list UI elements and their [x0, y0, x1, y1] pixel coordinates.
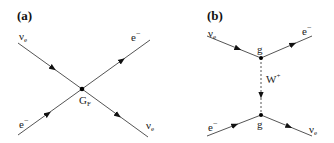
outgoing-neutrino-line — [261, 115, 312, 136]
label-nu-e-out: νe — [309, 123, 317, 137]
label-electron-out: e− — [302, 23, 312, 37]
label-nu-e-out: νe — [146, 119, 154, 133]
outgoing-electron-line — [261, 36, 312, 58]
feynman-diagrams: (a) νe e− e− νe GF (b) νe — [0, 0, 334, 143]
top-vertex-dot — [259, 56, 263, 60]
label-w-boson: W+ — [266, 72, 280, 85]
label-electron-out: e− — [131, 29, 141, 43]
panel-b: (b) νe e− g W+ g e− νe — [207, 8, 317, 137]
vertex-dot — [80, 87, 85, 92]
label-nu-e-in: νe — [208, 27, 216, 41]
label-fermi-coupling: GF — [79, 94, 91, 108]
label-nu-e-in: νe — [19, 30, 27, 44]
incoming-electron-line — [18, 89, 82, 135]
bottom-vertex-dot — [259, 113, 263, 117]
label-electron-in: e− — [208, 119, 218, 133]
label-coupling-top: g — [257, 43, 263, 55]
panel-b-label: (b) — [207, 8, 223, 23]
panel-a: (a) νe e− e− νe GF — [17, 8, 154, 137]
label-coupling-bottom: g — [257, 118, 263, 130]
panel-a-label: (a) — [17, 8, 32, 23]
incoming-neutrino-line — [18, 43, 82, 89]
outgoing-neutrino-line — [82, 89, 148, 137]
